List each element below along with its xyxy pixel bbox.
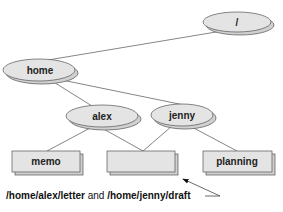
node-home-label: home <box>27 65 54 76</box>
node-root: / <box>203 12 274 35</box>
node-planning: planning <box>203 151 275 175</box>
edge-alex-shared <box>100 127 143 151</box>
tree-edges <box>47 31 237 151</box>
node-jenny: jenny <box>151 104 216 129</box>
node-shared-file <box>107 151 178 175</box>
caption-path-jenny: /home/jenny/draft <box>107 190 191 201</box>
caption: /home/alex/letter and /home/jenny/draft <box>6 190 191 201</box>
node-jenny-label: jenny <box>168 110 196 121</box>
caption-path-alex: /home/alex/letter <box>6 190 85 201</box>
node-memo: memo <box>12 151 83 175</box>
directory-tree-diagram: / home alex jenny memo planning <box>0 0 283 212</box>
caption-and: and <box>85 190 107 201</box>
node-planning-label: planning <box>216 156 258 167</box>
node-alex-label: alex <box>92 111 112 122</box>
edge-alex-memo <box>47 127 92 151</box>
node-home: home <box>3 59 78 84</box>
node-alex: alex <box>66 105 141 130</box>
node-memo-label: memo <box>31 156 60 167</box>
node-root-label: / <box>236 17 239 28</box>
edge-jenny-shared <box>143 126 172 151</box>
edge-jenny-planning <box>190 126 237 151</box>
edge-home-jenny <box>62 80 184 105</box>
edge-root-home <box>48 31 222 60</box>
